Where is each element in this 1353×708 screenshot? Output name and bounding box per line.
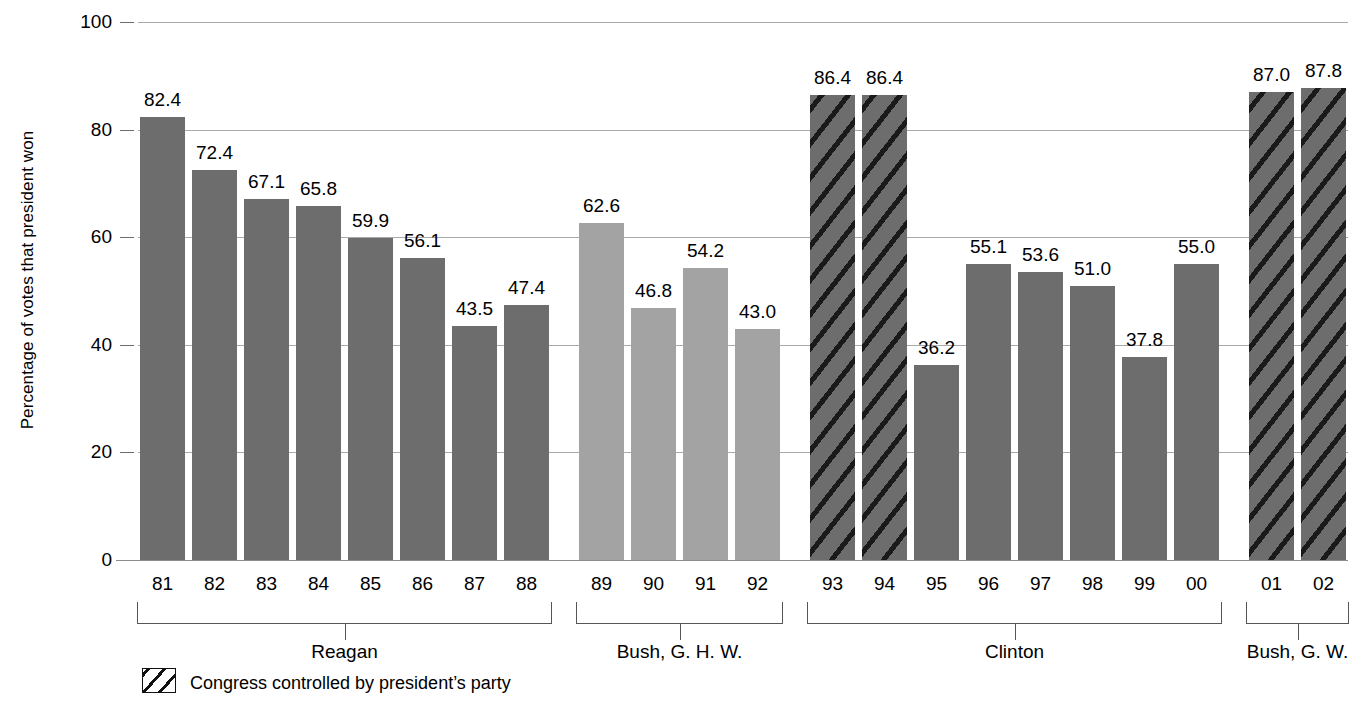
bar-value-label-87: 43.5 (442, 299, 507, 318)
y-tick-mark-80 (120, 130, 134, 131)
group-bracket-stem-0 (345, 624, 346, 640)
y-axis-tick-label-80: 80 (68, 120, 112, 139)
bar-value-label-00: 55.0 (1164, 237, 1229, 256)
group-bracket-stem-3 (1298, 624, 1299, 640)
bar-value-label-92: 43.0 (725, 302, 790, 321)
y-tick-mark-100 (120, 22, 134, 23)
legend-hatch-pattern (142, 668, 176, 693)
bar-02 (1301, 88, 1346, 560)
bar-00 (1174, 264, 1219, 560)
bar-01 (1249, 92, 1294, 560)
bar-88 (504, 305, 549, 560)
bar-90 (631, 308, 676, 560)
bar-97 (1018, 272, 1063, 560)
bar-92 (735, 329, 780, 560)
legend-label-hatched: Congress controlled by president’s party (190, 674, 511, 692)
bar-value-label-89: 62.6 (569, 196, 634, 215)
bar-86 (400, 258, 445, 560)
y-tick-mark-20 (120, 452, 134, 453)
group-label-bush-g-w: Bush, G. W. (1148, 642, 1353, 661)
bar-81 (140, 117, 185, 560)
group-bracket-0 (137, 602, 552, 624)
bar-87 (452, 326, 497, 560)
y-tick-mark-40 (120, 345, 134, 346)
bar-96 (966, 264, 1011, 560)
x-axis-tick-label-88: 88 (496, 574, 557, 593)
y-axis-tick-label-100: 100 (68, 12, 112, 31)
bar-value-label-99: 37.8 (1112, 330, 1177, 349)
bar-value-label-94: 86.4 (852, 68, 917, 87)
bar-84 (296, 206, 341, 560)
bar-value-label-90: 46.8 (621, 281, 686, 300)
bar-value-label-85: 59.9 (338, 211, 403, 230)
y-axis-tick-label-0: 0 (68, 550, 112, 569)
bar-85 (348, 238, 393, 560)
x-axis-line (116, 560, 1348, 561)
x-axis-tick-label-00: 00 (1166, 574, 1227, 593)
bar-99 (1122, 357, 1167, 560)
group-bracket-stem-1 (680, 624, 681, 640)
x-axis-tick-label-92: 92 (727, 574, 788, 593)
bar-83 (244, 199, 289, 560)
bar-98 (1070, 286, 1115, 560)
gridline-100 (138, 22, 1348, 23)
bar-value-label-95: 36.2 (904, 338, 969, 357)
bar-value-label-82: 72.4 (182, 143, 247, 162)
gridline-80 (138, 130, 1348, 131)
bar-value-label-02: 87.8 (1291, 61, 1353, 80)
group-bracket-1 (576, 602, 783, 624)
y-axis-tick-label-60: 60 (68, 227, 112, 246)
bar-value-label-86: 56.1 (390, 231, 455, 250)
bar-value-label-91: 54.2 (673, 241, 738, 260)
y-axis-title: Percentage of votes that president won (18, 90, 38, 470)
legend-swatch-hatched-icon (142, 668, 176, 693)
bar-93 (810, 95, 855, 560)
bar-91 (683, 268, 728, 560)
group-label-bush-g-h-w: Bush, G. H. W. (530, 642, 830, 661)
bar-94 (862, 95, 907, 560)
group-bracket-3 (1246, 602, 1349, 624)
x-axis-tick-label-02: 02 (1293, 574, 1353, 593)
group-label-reagan: Reagan (195, 642, 495, 661)
group-bracket-2 (807, 602, 1222, 624)
bar-value-label-81: 82.4 (130, 90, 195, 109)
bar-value-label-88: 47.4 (494, 278, 559, 297)
y-axis-tick-label-20: 20 (68, 442, 112, 461)
y-axis-tick-label-40: 40 (68, 335, 112, 354)
y-tick-mark-60 (120, 237, 134, 238)
bar-82 (192, 170, 237, 560)
bar-95 (914, 365, 959, 560)
group-bracket-stem-2 (1015, 624, 1016, 640)
bar-value-label-98: 51.0 (1060, 259, 1125, 278)
bar-89 (579, 223, 624, 560)
bar-value-label-84: 65.8 (286, 179, 351, 198)
group-label-clinton: Clinton (865, 642, 1165, 661)
